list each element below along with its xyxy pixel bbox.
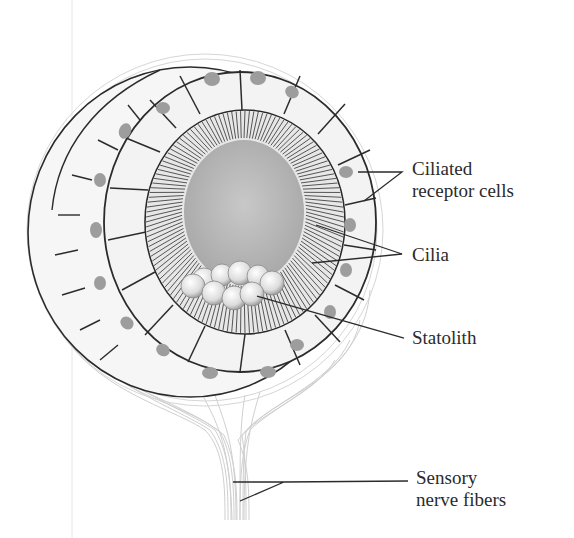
label-sensory-nerve-fibers: Sensory nerve fibers <box>416 467 506 511</box>
label-statolith: Statolith <box>412 327 476 349</box>
label-cilia: Cilia <box>412 244 449 266</box>
statocyst-diagram <box>0 0 574 538</box>
label-ciliated-receptor-cells: Ciliated receptor cells <box>412 158 514 202</box>
